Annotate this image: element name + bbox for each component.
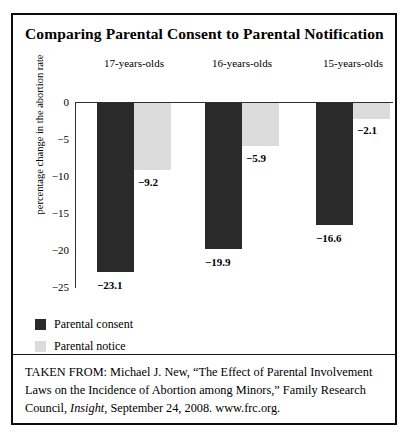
bar-notice-17[interactable] — [134, 103, 171, 170]
bar-notice-15[interactable] — [353, 103, 390, 119]
y-tick-5: −25 — [35, 281, 69, 293]
legend-swatch-icon-consent — [35, 319, 46, 330]
group-label-15: 15-years-olds — [323, 57, 383, 69]
source-divider — [13, 354, 395, 355]
y-tick-1: −5 — [35, 133, 69, 145]
bar-notice-16[interactable] — [242, 103, 279, 146]
source-suffix: , September 24, 2008. www.frc.org. — [104, 401, 280, 415]
y-tick-4: −20 — [35, 244, 69, 256]
legend-label-notice: Parental notice — [54, 339, 126, 354]
source-note: TAKEN FROM: Michael J. New, “The Effect … — [25, 363, 385, 418]
value-notice-17: −9.2 — [138, 176, 158, 188]
y-tick-0: 0 — [35, 96, 69, 108]
y-tick-3: −15 — [35, 207, 69, 219]
bar-group-17: 17-years-olds −23.1 −9.2 — [97, 51, 171, 306]
page-title: Comparing Parental Consent to Parental N… — [25, 25, 387, 42]
bar-group-15: 15-years-olds −16.6 −2.1 — [316, 51, 390, 306]
bar-group-16: 16-years-olds −19.9 −5.9 — [205, 51, 279, 306]
y-tick-2: −10 — [35, 170, 69, 182]
bar-consent-17[interactable] — [97, 103, 134, 272]
value-notice-15: −2.1 — [357, 124, 377, 136]
plot-area: percentage change in the abortion rate 0… — [13, 51, 395, 306]
group-label-16: 16-years-olds — [212, 57, 272, 69]
source-publication: Insight — [70, 401, 104, 415]
bar-consent-16[interactable] — [205, 103, 242, 249]
group-label-17: 17-years-olds — [104, 57, 164, 69]
y-axis-ticks: 0 −5 −10 −15 −20 −25 — [35, 51, 69, 306]
value-consent-17: −23.1 — [97, 279, 123, 291]
value-notice-16: −5.9 — [246, 152, 266, 164]
figure-frame: Comparing Parental Consent to Parental N… — [11, 13, 397, 425]
legend-item-parental-consent[interactable]: Parental consent — [35, 313, 315, 335]
legend-swatch-icon-notice — [35, 341, 46, 352]
chart-legend: Parental consent Parental notice — [35, 313, 315, 357]
value-consent-15: −16.6 — [316, 232, 342, 244]
legend-label-consent: Parental consent — [54, 317, 133, 332]
bar-consent-15[interactable] — [316, 103, 353, 225]
bar-groups: 17-years-olds −23.1 −9.2 16-years-olds −… — [75, 51, 393, 306]
value-consent-16: −19.9 — [205, 256, 231, 268]
